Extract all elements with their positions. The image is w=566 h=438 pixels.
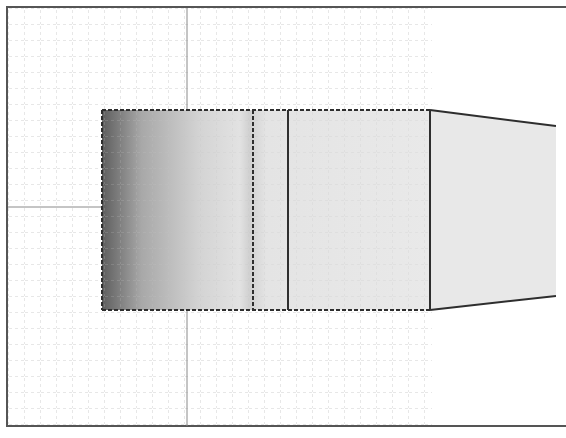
- model[interactable]: [102, 110, 556, 310]
- cylinder-grid-overlay: [102, 110, 430, 310]
- cone-body[interactable]: [430, 110, 556, 310]
